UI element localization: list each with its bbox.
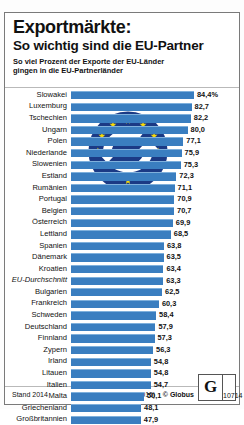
bar-track: 62,5 bbox=[71, 286, 241, 298]
bar-value-label: 82,7 bbox=[192, 101, 209, 113]
description-line-1: So viel Prozent der Exporte der EU-Lände… bbox=[13, 57, 239, 66]
bar bbox=[71, 172, 176, 180]
bar bbox=[71, 334, 155, 342]
bar-row: Ungarn80,0 bbox=[5, 124, 241, 136]
bar-row: Lettland68,5 bbox=[5, 228, 241, 240]
bar bbox=[71, 149, 182, 157]
bar-value-label: 75,9 bbox=[182, 147, 199, 159]
bar-row: Slowenien75,3 bbox=[5, 159, 241, 171]
bar-track: 63,4 bbox=[71, 263, 241, 275]
bar-track: 54,8 bbox=[71, 356, 241, 368]
bar-category-label: Estland bbox=[5, 171, 71, 181]
bar bbox=[71, 137, 183, 145]
bar-value-label: 54,7 bbox=[151, 379, 168, 391]
bar bbox=[71, 207, 174, 215]
bar-row: Niederlande75,9 bbox=[5, 147, 241, 159]
bar-value-label: 58,4 bbox=[156, 309, 173, 321]
bar-row: Frankreich60,3 bbox=[5, 298, 241, 310]
bar-row: Portugal70,9 bbox=[5, 193, 241, 205]
bar-value-label: 54,8 bbox=[151, 367, 168, 379]
bar-row: Estland72,3 bbox=[5, 170, 241, 182]
bar-track: 47,9 bbox=[71, 414, 241, 425]
bar-category-label: Zypern bbox=[5, 345, 71, 355]
bar bbox=[71, 242, 164, 250]
bar-row: Großbritannien47,9 bbox=[5, 414, 241, 425]
bar-value-label: 80,0 bbox=[188, 124, 205, 136]
bar bbox=[71, 103, 192, 111]
bar-track: 71,1 bbox=[71, 182, 241, 194]
bar-category-label: Portugal bbox=[5, 194, 71, 204]
bar bbox=[71, 184, 175, 192]
bar-track: 75,9 bbox=[71, 147, 241, 159]
page-title: Exportmärkte: bbox=[13, 18, 239, 37]
bar-row: Spanien63,8 bbox=[5, 240, 241, 252]
bar bbox=[71, 195, 174, 203]
bar-row: Rumänien71,1 bbox=[5, 182, 241, 194]
bar-row: Zypern56,3 bbox=[5, 344, 241, 356]
bar-value-label: 48,1 bbox=[141, 402, 158, 414]
bar-row: Irland54,8 bbox=[5, 356, 241, 368]
bar-row: Kroatien63,4 bbox=[5, 263, 241, 275]
bar-category-label: Irland bbox=[5, 356, 71, 366]
bar-track: 50,1 bbox=[71, 390, 241, 402]
bar-value-label: 54,8 bbox=[151, 356, 168, 368]
bar bbox=[71, 346, 153, 354]
bar bbox=[71, 300, 159, 308]
bar bbox=[71, 219, 173, 227]
bar-row: Luxemburg82,7 bbox=[5, 101, 241, 113]
header: Exportmärkte: So wichtig sind die EU-Par… bbox=[5, 13, 239, 78]
header-divider bbox=[5, 87, 239, 88]
bar-category-label: Litauen bbox=[5, 368, 71, 378]
bar bbox=[71, 392, 144, 400]
bar-row: Malta50,1 bbox=[5, 390, 241, 402]
bar-value-label: 63,8 bbox=[164, 240, 181, 252]
bar-rows: Slowakei84,4%Luxemburg82,7Tschechien82,2… bbox=[5, 89, 241, 425]
bar-track: 75,3 bbox=[71, 159, 241, 171]
bar-row: Schweden58,4 bbox=[5, 309, 241, 321]
bar-value-label: 72,3 bbox=[176, 170, 193, 182]
bar-category-label: Kroatien bbox=[5, 264, 71, 274]
bar-value-label: 68,5 bbox=[171, 228, 188, 240]
description-line-2: gingen in die EU-Partnerländer bbox=[13, 66, 239, 75]
bar bbox=[71, 404, 141, 412]
bar-value-label: 50,1 bbox=[144, 390, 161, 402]
bar bbox=[71, 381, 151, 389]
bar-row: Litauen54,8 bbox=[5, 367, 241, 379]
bar-track: 84,4% bbox=[71, 89, 241, 101]
bar-category-label: Malta bbox=[5, 391, 71, 401]
bar-track: 80,0 bbox=[71, 124, 241, 136]
bar-category-label: Finnland bbox=[5, 333, 71, 343]
page-subtitle: So wichtig sind die EU-Partner bbox=[13, 38, 239, 53]
bar-row: Belgien70,7 bbox=[5, 205, 241, 217]
bar-row: Finnland57,3 bbox=[5, 332, 241, 344]
bar bbox=[71, 277, 163, 285]
bar-track: 70,9 bbox=[71, 193, 241, 205]
bar-value-label: 69,9 bbox=[173, 217, 190, 229]
bar-category-label: Spanien bbox=[5, 241, 71, 251]
bar-row: Tschechien82,2 bbox=[5, 112, 241, 124]
bar bbox=[71, 253, 164, 261]
bar-value-label: 75,3 bbox=[181, 159, 198, 171]
bar-row: EU-Durchschnitt63,3 bbox=[5, 275, 241, 287]
bar-value-label: 62,5 bbox=[162, 286, 179, 298]
bar-category-label: Ungarn bbox=[5, 125, 71, 135]
bar bbox=[71, 358, 151, 366]
bar-category-label: Bulgarien bbox=[5, 287, 71, 297]
bar-row: Polen77,1 bbox=[5, 135, 241, 147]
bar-row: Slowakei84,4% bbox=[5, 89, 241, 101]
bar-track: 57,3 bbox=[71, 332, 241, 344]
bar-category-label: Österreich bbox=[5, 217, 71, 227]
bar-value-label: 57,9 bbox=[155, 321, 172, 333]
bar-row: Italien54,7 bbox=[5, 379, 241, 391]
bar bbox=[71, 161, 181, 169]
bar-value-label: 70,7 bbox=[174, 205, 191, 217]
bar-track: 68,5 bbox=[71, 228, 241, 240]
bar-track: 57,9 bbox=[71, 321, 241, 333]
bar-value-label: 77,1 bbox=[183, 135, 200, 147]
bar bbox=[71, 91, 194, 99]
bar-category-label: Polen bbox=[5, 136, 71, 146]
bar-category-label: EU-Durchschnitt bbox=[5, 275, 71, 285]
bar-value-label: 84,4% bbox=[194, 89, 218, 101]
bar-row: Bulgarien62,5 bbox=[5, 286, 241, 298]
